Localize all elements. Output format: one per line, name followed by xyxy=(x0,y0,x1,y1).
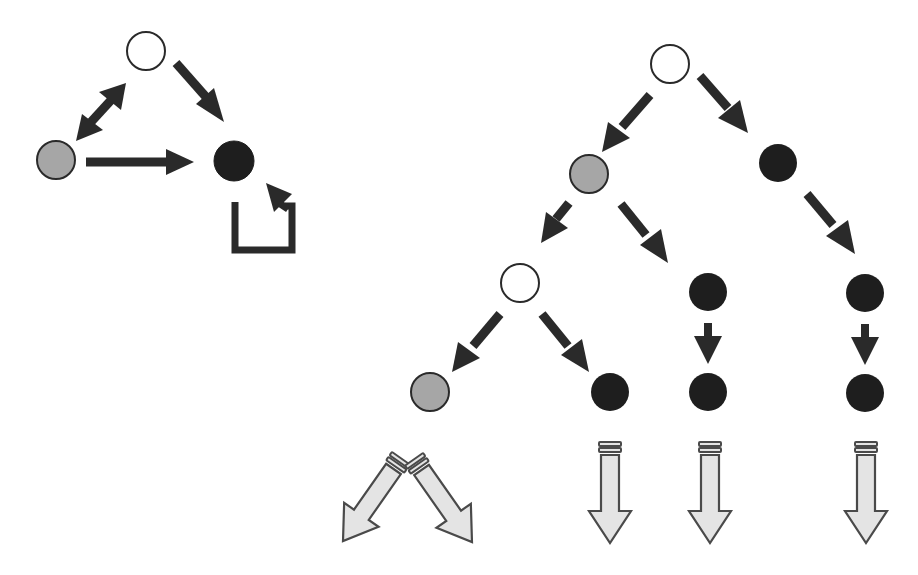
tree-node-l1-black xyxy=(759,144,797,182)
state-diagram xyxy=(37,32,292,250)
continuation-arrow-down-3 xyxy=(845,442,887,543)
diagram-canvas xyxy=(0,0,918,575)
state-node-white xyxy=(127,32,165,70)
tree-node-l2-black-a xyxy=(689,273,727,311)
tree-arrow-white-to-gray xyxy=(452,314,500,372)
arrow-gray-to-black xyxy=(86,149,194,175)
tree-node-root-white xyxy=(651,45,689,83)
tree-arrow-black-to-black-b xyxy=(807,194,855,254)
tree-arrow-gray-to-white xyxy=(541,203,569,243)
tree-arrow-gray-to-black-a xyxy=(621,204,668,263)
tree-node-l3-black-a xyxy=(591,373,629,411)
tree-arrow-root-to-black xyxy=(700,76,748,133)
tree-arrow-root-to-gray xyxy=(602,95,650,152)
state-node-black xyxy=(214,141,254,181)
tree-node-l3-black-c xyxy=(846,374,884,412)
tree-node-l2-white xyxy=(501,264,539,302)
tree-node-l3-gray xyxy=(411,373,449,411)
tree-node-l1-gray xyxy=(570,155,608,193)
tree-diagram xyxy=(326,45,887,554)
continuation-arrow-down-1 xyxy=(589,442,631,543)
continuation-arrow-down-2 xyxy=(689,442,731,543)
tree-arrow-white-to-black-a xyxy=(542,314,589,372)
self-loop-arrow xyxy=(235,183,292,250)
arrow-gray-white-bidirectional xyxy=(76,83,126,141)
continuation-arrow-down-left xyxy=(326,446,418,553)
tree-node-l2-black-b xyxy=(846,274,884,312)
state-node-gray xyxy=(37,141,75,179)
continuation-arrow-down-right xyxy=(397,447,489,554)
tree-node-l3-black-b xyxy=(689,373,727,411)
arrow-white-to-black xyxy=(176,63,224,122)
tree-arrow-black-a-down xyxy=(694,323,722,364)
tree-arrow-black-b-down xyxy=(851,324,879,365)
